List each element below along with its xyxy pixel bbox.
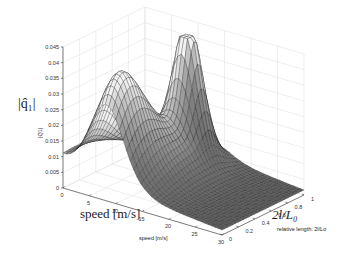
x-tick-label: 30 [218, 239, 224, 245]
z-tick-label: 0.015 [45, 138, 59, 144]
surface-plot: 00.0050.010.0150.020.0250.030.0350.040.0… [0, 0, 343, 253]
z-tick-label: 0.01 [48, 154, 59, 160]
z-tick-label: 0.025 [45, 107, 59, 113]
z-tick-label: 0.04 [48, 60, 59, 66]
x-tick-label: 0 [60, 192, 63, 198]
z-tick-label: 0.035 [45, 75, 59, 81]
y-axis-label: relative length: 2l/Lo [277, 226, 326, 232]
y-axis-overlay-label: 2l/L₀ [272, 207, 297, 222]
z-tick-label: 0.03 [48, 91, 59, 97]
z-tick-label: 0.045 [45, 44, 59, 50]
z-tick-label: 0 [56, 185, 59, 191]
grid-line [63, 38, 145, 78]
surface-mesh [63, 34, 304, 230]
grid-line [63, 7, 145, 47]
x-axis-label: speed [m/s] [139, 235, 168, 241]
y-tick-label: 0.2 [245, 228, 253, 234]
z-axis-overlay-label: |q̂₁| [18, 96, 36, 111]
x-tick-label: 20 [165, 223, 171, 229]
z-tick-label: 0.02 [48, 122, 59, 128]
x-axis-overlay-label: speed [m/s] [80, 206, 140, 221]
z-axis-label: |Q1| [37, 128, 43, 138]
y-tick-label: 0.4 [262, 220, 270, 226]
z-tick-label: 0.005 [45, 169, 59, 175]
grid-line [63, 23, 145, 63]
y-tick-label: 0 [229, 236, 232, 242]
x-tick-label: 25 [191, 231, 197, 237]
y-tick-label: 1 [311, 196, 314, 202]
x-tick-label: 5 [87, 200, 90, 206]
